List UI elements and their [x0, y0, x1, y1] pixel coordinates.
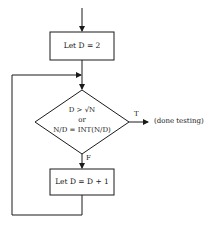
exit-label: (done testing)	[154, 118, 204, 125]
decision-line-2: or	[50, 117, 114, 124]
true-label: T	[134, 111, 139, 118]
decision-line-3: N/D = INT(N/D)	[40, 127, 124, 134]
decision-line-1: D > √N	[50, 107, 114, 114]
false-label: F	[86, 155, 91, 162]
increment-label: Let D = D + 1	[50, 178, 114, 186]
flowchart-canvas	[0, 0, 215, 229]
increment-loop-line	[12, 195, 82, 215]
init-label: Let D = 2	[50, 42, 114, 50]
